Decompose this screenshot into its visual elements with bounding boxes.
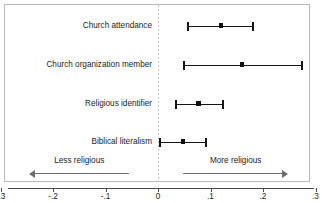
estimate-row: Church organization member (0, 57, 322, 73)
ci-upper-cap (222, 100, 224, 109)
estimate-row-label: Religious identifier (85, 96, 152, 112)
ci-upper-cap (205, 138, 207, 147)
x-axis-tick-label: .2 (260, 192, 267, 201)
annotation-arrow-line (34, 173, 129, 174)
annotation-label: More religious (210, 156, 261, 165)
estimate-row: Biblical literalism (0, 134, 322, 150)
point-estimate-marker (240, 62, 245, 67)
x-axis-tick-label: 0 (156, 192, 161, 201)
arrow-left-icon (29, 170, 35, 178)
x-axis-tick-label: -.2 (48, 192, 58, 201)
coefficient-plot-figure: Church attendanceChurch organization mem… (0, 0, 322, 203)
estimate-row-label: Church organization member (46, 57, 152, 73)
ci-lower-cap (187, 22, 189, 31)
annotation-label: Less religious (54, 156, 104, 165)
point-estimate-marker (181, 139, 186, 144)
x-axis-tick-label: .1 (207, 192, 214, 201)
estimate-row: Church attendance (0, 18, 322, 34)
ci-lower-cap (159, 138, 161, 147)
annotation-arrow-line (183, 173, 283, 174)
estimate-row-label: Biblical literalism (91, 134, 152, 150)
ci-lower-cap (175, 100, 177, 109)
ci-upper-cap (301, 61, 303, 70)
x-axis-tick-label: .3 (312, 192, 319, 201)
x-axis-tick-label: -.1 (101, 192, 111, 201)
ci-upper-cap (252, 22, 254, 31)
point-estimate-marker (196, 101, 201, 106)
estimate-row: Religious identifier (0, 96, 322, 112)
point-estimate-marker (219, 23, 224, 28)
x-axis-tick-label: -.3 (0, 192, 5, 201)
ci-lower-cap (183, 61, 185, 70)
arrow-right-icon (282, 170, 288, 178)
estimate-row-label: Church attendance (83, 18, 152, 34)
